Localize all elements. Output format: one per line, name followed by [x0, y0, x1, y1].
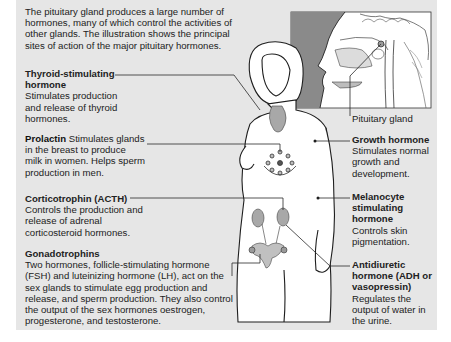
prolactin-title: Prolactin	[25, 133, 66, 144]
label-prolactin: Prolactin Stimulates glands in the breas…	[25, 133, 145, 178]
right-kidney	[277, 208, 289, 226]
tsh-title-line2: hormone	[25, 79, 125, 90]
msh-title: Melanocyte stimulating hormone	[352, 191, 424, 225]
gonadotrophins-title: Gonadotrophins	[25, 248, 237, 259]
tsh-description: Stimulates production and release of thy…	[25, 90, 117, 123]
adh-description: Regulates the output of water in the uri…	[352, 293, 426, 326]
label-adh: Antidiuretic hormone (ADH or vasopressin…	[352, 259, 436, 326]
acth-title: Corticotrophin (ACTH)	[25, 193, 155, 204]
tsh-leader	[115, 75, 260, 110]
growth-hormone-description: Stimulates normal growth and development…	[352, 145, 429, 178]
label-acth: Corticotrophin (ACTH) Controls the produ…	[25, 193, 155, 238]
adh-title: Antidiuretic hormone (ADH or vasopressin…	[352, 259, 436, 293]
head-cross-section-inset	[291, 12, 431, 108]
label-growth-hormone: Growth hormone Stimulates normal growth …	[352, 134, 438, 179]
acth-description: Controls the production and release of a…	[25, 204, 143, 237]
tsh-title-line1: Thyroid-stimulating	[25, 68, 125, 79]
label-msh: Melanocyte stimulating hormone Controls …	[352, 191, 424, 247]
intro-paragraph: The pituitary gland produces a large num…	[25, 6, 240, 51]
growth-hormone-title: Growth hormone	[352, 134, 438, 145]
label-tsh: Thyroid-stimulating hormone Stimulates p…	[25, 68, 125, 124]
gonadotrophins-description: Two hormones, follicle-stimulating hormo…	[25, 259, 233, 326]
pituitary-gland-label: Pituitary gland	[352, 113, 437, 124]
msh-description: Controls skin pigmentation.	[352, 225, 410, 247]
label-gonadotrophins: Gonadotrophins Two hormones, follicle-st…	[25, 248, 237, 326]
